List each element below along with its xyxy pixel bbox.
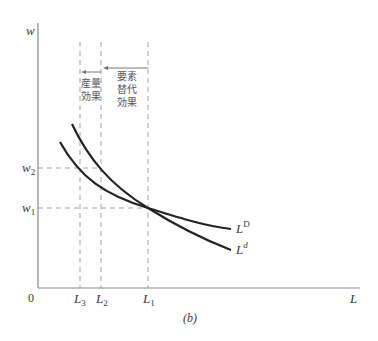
label-Ld: Ld	[235, 240, 248, 257]
y-axis-label: w	[26, 23, 35, 38]
tick-w1: w1	[22, 200, 35, 217]
arrowhead-icon	[103, 66, 108, 70]
curve-LD	[60, 142, 231, 229]
x-axis-label: L	[349, 291, 357, 306]
tick-L1: L1	[142, 291, 155, 308]
curve-Ld	[72, 124, 231, 250]
label-LD: LD	[235, 219, 250, 236]
labor-demand-diagram: 産量 効果 要素 替代 効果 w L 0 w2 w1 L3 L2 L1 LD L…	[0, 0, 378, 341]
output-effect-line1: 産量	[81, 77, 101, 89]
output-effect-line2: 効果	[81, 90, 101, 102]
tick-L3: L3	[73, 291, 86, 308]
figure-caption: (b)	[183, 311, 197, 325]
origin-label: 0	[28, 291, 34, 305]
substitution-effect-line1: 要素	[117, 70, 137, 82]
tick-L2: L2	[95, 291, 108, 308]
substitution-effect-line3: 効果	[117, 96, 137, 108]
substitution-effect-line2: 替代	[117, 83, 137, 95]
arrowhead-icon	[81, 70, 86, 74]
tick-w2: w2	[22, 160, 35, 177]
